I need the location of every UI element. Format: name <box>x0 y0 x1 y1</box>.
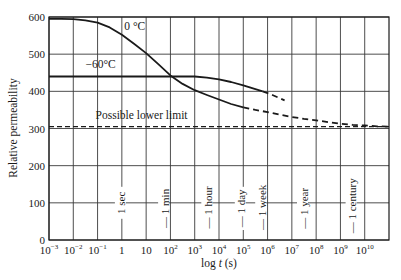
x-tick-label: 108 <box>309 243 324 256</box>
time-marker-labels: 1 sec— 1 min— 1 hour— 1 day— 1 week— 1 y… <box>115 173 358 239</box>
time-marker: — 1 century <box>346 173 359 239</box>
x-tick-label: 1010 <box>356 243 375 256</box>
time-marker: — 1 hour <box>201 183 214 232</box>
time-marker: — 1 day <box>235 187 248 230</box>
y-tick-label: 300 <box>29 123 46 135</box>
lower-limit-label: Possible lower limit <box>96 109 189 121</box>
series-label-0c: 0 °C <box>124 20 145 32</box>
time-marker-label: — 1 year <box>298 188 310 230</box>
time-marker-label: 1 sec <box>115 192 127 214</box>
permeability-vs-time-chart: 1 sec— 1 min— 1 hour— 1 day— 1 week— 1 y… <box>0 0 401 280</box>
x-tick-label: 10−2 <box>64 243 83 256</box>
time-marker: — 1 week <box>255 183 268 232</box>
x-tick-label: 109 <box>333 243 348 256</box>
y-axis-ticks: 0100200300400500600 <box>29 11 46 246</box>
x-tick-label: 10−1 <box>88 243 107 256</box>
y-tick-label: 400 <box>29 85 46 97</box>
x-tick-label: 104 <box>212 243 227 256</box>
y-tick-label: 200 <box>29 160 46 172</box>
time-marker-label: — 1 day <box>235 189 247 228</box>
time-marker-label: — 1 hour <box>202 186 214 230</box>
grid-lines <box>49 17 389 240</box>
series-line-dashed <box>263 91 285 100</box>
x-axis-ticks: 10−310−210−11101021031041051061071081091… <box>40 243 374 256</box>
time-marker-label: — 1 week <box>256 184 268 231</box>
time-marker-label: — 1 min <box>159 188 171 229</box>
y-tick-label: 600 <box>29 11 46 23</box>
x-tick-label: 103 <box>187 243 202 256</box>
series-line-solid <box>49 77 263 92</box>
time-marker: 1 sec <box>115 187 128 219</box>
x-axis-label: log t (s) <box>201 257 237 270</box>
curve-annotations: Possible lower limit0 °C−60°C <box>85 20 188 121</box>
x-tick-label: 105 <box>236 243 251 256</box>
x-tick-label: 1 <box>119 244 125 256</box>
x-tick-label: 10 <box>141 244 153 256</box>
y-axis-label: Relative permeability <box>7 78 20 178</box>
x-tick-label: 106 <box>260 243 275 256</box>
time-marker: — 1 min <box>158 187 171 230</box>
x-tick-label: 107 <box>285 243 300 256</box>
y-tick-label: 100 <box>29 197 46 209</box>
time-marker: — 1 year <box>297 184 310 233</box>
x-tick-label: 102 <box>163 243 178 256</box>
y-tick-label: 500 <box>29 48 46 60</box>
time-marker-label: — 1 century <box>346 178 358 234</box>
series-label-minus60c: −60°C <box>85 58 116 70</box>
y-tick-label: 0 <box>40 234 46 246</box>
